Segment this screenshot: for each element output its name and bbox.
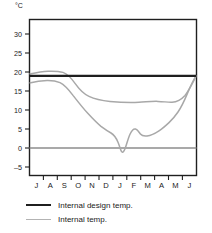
x-tick-label-aug: A	[48, 181, 54, 190]
x-tick-label-sep: S	[62, 181, 67, 190]
legend-item-internal-temp: Internal temp.	[0, 212, 212, 226]
y-tick-label-5: 5	[18, 125, 22, 134]
x-tick-label-mar: M	[145, 181, 151, 190]
plot-svg: 30 25 20 15 10 5 0 –5	[0, 0, 212, 190]
legend-label-internal-temp: Internal temp.	[58, 215, 107, 224]
x-tick-label-apr: A	[159, 181, 165, 190]
y-tick-label-0: 0	[18, 144, 22, 153]
x-tick-label-may: M	[172, 181, 178, 190]
y-tick-label-minus5: –5	[14, 163, 22, 172]
legend-swatch-design-temp	[26, 204, 51, 206]
x-tick-label-jan: J	[118, 181, 122, 190]
chart-legend: Internal design temp. Internal temp.	[0, 198, 212, 226]
x-tick-label-oct: O	[75, 181, 81, 190]
legend-item-design-temp: Internal design temp.	[0, 198, 212, 212]
x-tick-label-dec: D	[103, 181, 109, 190]
x-tick-label-jun: J	[188, 181, 192, 190]
y-tick-label-25: 25	[14, 49, 22, 58]
plot-area: 30 25 20 15 10 5 0 –5	[0, 0, 212, 190]
x-tick-label-feb: F	[131, 181, 136, 190]
legend-label-design-temp: Internal design temp.	[58, 201, 133, 210]
x-tick-label-nov: N	[89, 181, 94, 190]
y-tick-label-10: 10	[14, 106, 22, 115]
y-tick-label-20: 20	[14, 68, 22, 77]
legend-swatch-internal-temp	[26, 219, 51, 220]
x-tick-label-jul: J	[35, 181, 39, 190]
plot-frame	[30, 20, 197, 176]
y-tick-label-15: 15	[14, 87, 22, 96]
y-tick-label-30: 30	[14, 30, 22, 39]
temperature-chart: °C 30 25 20 15 10 5 0 –5	[0, 0, 212, 233]
